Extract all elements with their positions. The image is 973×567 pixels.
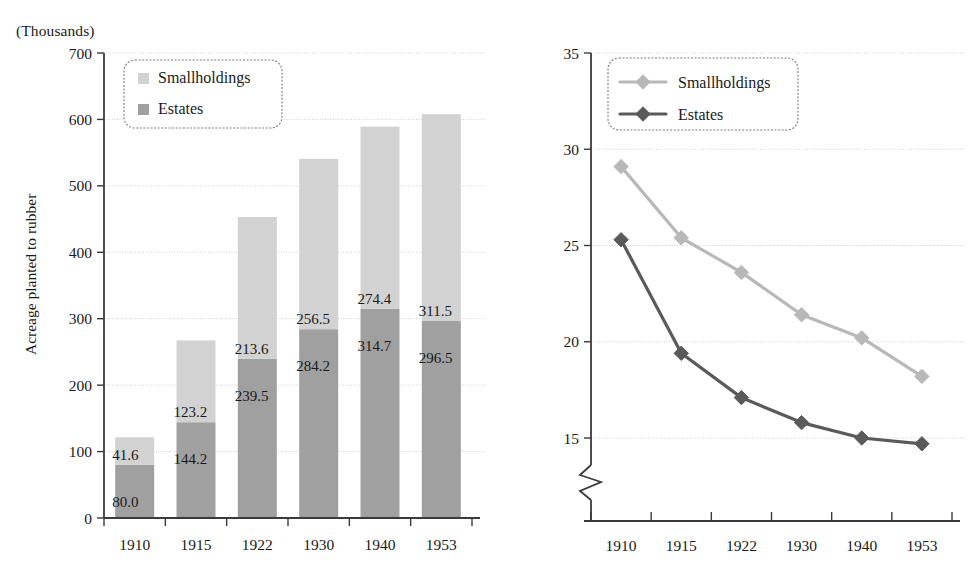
data-point-marker <box>915 437 929 451</box>
line-series-smallholdings <box>614 159 929 383</box>
bar-value-label-estates: 144.2 <box>174 451 208 467</box>
bar-chart-bars <box>115 114 461 518</box>
bar-segment-estates <box>115 465 154 518</box>
line-chart-legend: SmallholdingsEstates <box>608 58 798 130</box>
bar-segment-smallholdings <box>361 127 400 309</box>
legend-swatch <box>138 104 149 115</box>
y-tick-label: 400 <box>69 244 93 261</box>
line-chart-series <box>614 159 929 451</box>
data-point-marker <box>794 415 808 429</box>
x-tick-label: 1915 <box>181 536 212 553</box>
bar-value-label-estates: 314.7 <box>358 338 392 354</box>
bar-segment-estates <box>238 359 277 518</box>
y-tick-label: 25 <box>564 237 580 254</box>
bar-chart-panel: (Thousands) Acreage planted to rubber 41… <box>0 0 490 567</box>
x-tick-label: 1922 <box>726 537 757 554</box>
x-tick-label: 1910 <box>606 537 637 554</box>
x-tick-label: 1940 <box>365 536 396 553</box>
legend-label: Smallholdings <box>158 69 250 87</box>
bar-segment-smallholdings <box>299 159 338 329</box>
bar-segment-estates <box>177 422 216 518</box>
line-chart-svg: 1520253035191019151922193019401953 Small… <box>490 0 973 567</box>
legend-label: Estates <box>158 100 203 117</box>
y-axis-break-icon <box>580 465 601 500</box>
bar-value-label-smallholdings: 41.6 <box>112 447 139 463</box>
y-tick-label: 600 <box>69 111 93 128</box>
x-tick-label: 1930 <box>786 537 817 554</box>
y-tick-label: 700 <box>69 45 93 62</box>
y-tick-label: 300 <box>69 310 93 327</box>
y-tick-label: 200 <box>69 377 93 394</box>
bar-value-label-smallholdings: 274.4 <box>358 291 392 307</box>
y-tick-label: 30 <box>564 141 580 158</box>
bar-segment-smallholdings <box>238 217 277 359</box>
bar-value-label-smallholdings: 256.5 <box>296 311 330 327</box>
legend-label: Smallholdings <box>678 74 770 92</box>
y-tick-label: 500 <box>69 177 93 194</box>
y-tick-label: 100 <box>69 443 93 460</box>
y-tick-label: 20 <box>564 333 580 350</box>
bar-value-label-estates: 296.5 <box>419 350 453 366</box>
line-chart-panel: (%) Share of Perak to Malaya 15202530351… <box>490 0 973 567</box>
bar-segment-smallholdings <box>422 114 461 321</box>
x-tick-label: 1922 <box>242 536 273 553</box>
y-tick-label: 0 <box>84 510 92 527</box>
bar-chart-value-labels: 41.680.0123.2144.2213.6239.5256.5284.227… <box>112 291 452 510</box>
bar-value-label-smallholdings: 123.2 <box>174 404 208 420</box>
x-tick-label: 1910 <box>119 536 150 553</box>
legend-entry: Smallholdings <box>620 74 770 92</box>
x-tick-label: 1940 <box>846 537 877 554</box>
x-tick-label: 1930 <box>303 536 334 553</box>
bar-value-label-smallholdings: 213.6 <box>235 341 269 357</box>
legend-swatch <box>138 73 149 84</box>
y-tick-label: 35 <box>564 45 580 62</box>
bar-chart-svg: 41.680.0123.2144.2213.6239.5256.5284.227… <box>0 0 490 567</box>
bar-value-label-estates: 80.0 <box>112 494 138 510</box>
legend-label: Estates <box>678 106 723 123</box>
line-series-estates <box>614 233 929 451</box>
y-tick-label: 15 <box>564 430 580 447</box>
bar-value-label-estates: 284.2 <box>296 358 330 374</box>
x-tick-label: 1953 <box>426 536 457 553</box>
x-tick-label: 1915 <box>666 537 697 554</box>
bar-value-label-smallholdings: 311.5 <box>419 303 452 319</box>
data-point-marker <box>855 431 869 445</box>
data-point-marker <box>614 233 628 247</box>
x-tick-label: 1953 <box>906 537 937 554</box>
bar-value-label-estates: 239.5 <box>235 388 269 404</box>
figure-root: (Thousands) Acreage planted to rubber 41… <box>0 0 973 567</box>
bar-chart-legend: SmallholdingsEstates <box>124 60 282 128</box>
